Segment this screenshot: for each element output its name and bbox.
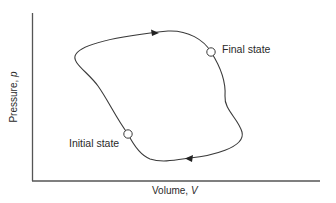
final-state-marker bbox=[207, 48, 215, 56]
x-axis-symbol: V bbox=[191, 185, 198, 196]
pv-diagram bbox=[0, 0, 336, 203]
final-state-label: Final state bbox=[222, 44, 270, 55]
y-axis-label-text: Pressure, bbox=[8, 80, 19, 123]
initial-state-marker bbox=[124, 130, 132, 138]
arrow-left-icon bbox=[185, 155, 193, 162]
arrow-right-icon bbox=[151, 30, 159, 37]
y-axis-symbol: p bbox=[8, 71, 19, 77]
y-axis-label: Pressure, p bbox=[8, 71, 19, 122]
initial-state-label: Initial state bbox=[69, 138, 119, 149]
x-axis-label-text: Volume, bbox=[152, 185, 188, 196]
x-axis-label: Volume, V bbox=[152, 186, 198, 196]
